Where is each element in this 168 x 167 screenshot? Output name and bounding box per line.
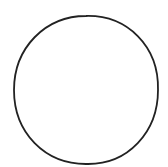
background	[0, 0, 168, 167]
diagram-canvas	[0, 0, 168, 167]
